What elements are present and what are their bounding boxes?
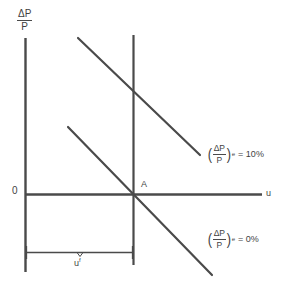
curve-label-expected-inflation-10: ( ΔP P )e = 10%: [207, 144, 264, 164]
curve-label-low-fraction: ΔP P: [213, 229, 226, 249]
y-axis-label-denominator: P: [20, 21, 29, 32]
curve-label-high-close-paren: ): [227, 146, 231, 163]
curve-label-low-close-paren: ): [227, 231, 231, 248]
y-axis-label-fraction: ΔP P: [17, 9, 32, 32]
curve-label-high-open-paren: (: [208, 146, 212, 163]
x-axis-label: u: [266, 189, 271, 198]
natural-rate-label-superscript: f: [79, 256, 81, 263]
curve-label-high-value: = 10%: [238, 150, 264, 159]
phillips-curve-figure: ΔP P 0 u A uf ( ΔP P )e = 10% ( ΔP P )e …: [0, 0, 284, 286]
curve-label-high-denominator: P: [216, 155, 224, 165]
y-axis-label-numerator: ΔP: [17, 9, 32, 21]
y-axis-label: ΔP P: [17, 9, 32, 32]
curve-label-low-open-paren: (: [208, 231, 212, 248]
curve-label-low-numerator: ΔP: [213, 229, 226, 240]
curve-label-high-numerator: ΔP: [213, 144, 226, 155]
curve-label-expected-inflation-0: ( ΔP P )e = 0%: [207, 229, 259, 249]
phillips-curve-high-line: [78, 38, 200, 155]
curve-label-low-denominator: P: [216, 240, 224, 250]
point-a-label: A: [141, 180, 147, 189]
curve-label-low-value: = 0%: [238, 235, 259, 244]
natural-rate-label: uf: [74, 259, 81, 268]
curve-label-high-fraction: ΔP P: [213, 144, 226, 164]
origin-label: 0: [12, 186, 18, 196]
